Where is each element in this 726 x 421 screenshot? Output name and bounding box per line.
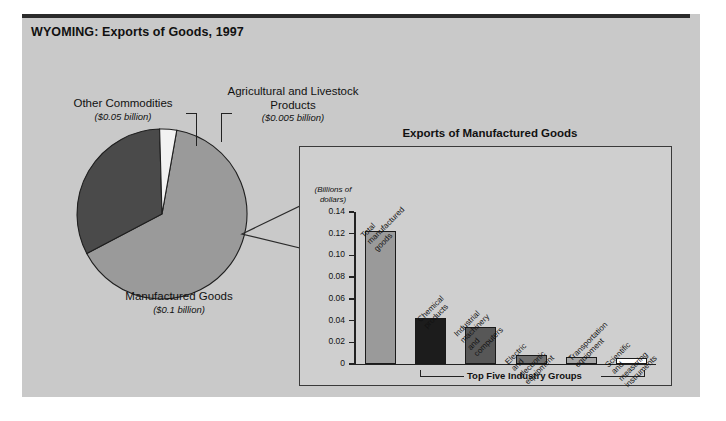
pie-label-manufactured-name: Manufactured Goods [104, 290, 254, 304]
y-tick-label: 0.08 [311, 271, 345, 281]
bar-plot: 00.020.040.060.080.100.120.14 Totalmanuf… [299, 146, 672, 386]
leader-line-other-elbow [186, 113, 197, 114]
page-title: WYOMING: Exports of Goods, 1997 [31, 25, 244, 39]
pie-label-agricultural-amount: ($0.005 billion) [218, 112, 368, 123]
pie-chart [76, 128, 248, 300]
y-tick-label: 0.14 [311, 206, 345, 216]
leader-line-agri-elbow [221, 113, 232, 114]
y-tick [349, 233, 354, 234]
pie-label-agricultural: Agricultural and Livestock Products ($0.… [218, 85, 368, 123]
y-tick-label: 0.10 [311, 249, 345, 259]
pie-to-inset-connector [240, 200, 302, 270]
y-tick-label: 0 [311, 358, 345, 368]
y-tick [349, 298, 354, 299]
pie-label-other-name: Other Commodities [48, 97, 198, 111]
group-bracket-left-arm [420, 376, 464, 377]
title-rule [22, 14, 690, 18]
pie-label-manufactured-amount: ($0.1 billion) [104, 304, 254, 315]
group-label: Top Five Industry Groups [467, 370, 582, 381]
leader-line-other-vertical [196, 113, 197, 146]
pie-label-other-commodities: Other Commodities ($0.05 billion) [48, 97, 198, 122]
pie-label-manufactured: Manufactured Goods ($0.1 billion) [104, 290, 254, 315]
figure-root: WYOMING: Exports of Goods, 1997 Other Co… [0, 0, 726, 421]
group-bracket-right-arm [601, 376, 645, 377]
pie-svg [76, 128, 248, 300]
bar-series [355, 212, 657, 364]
y-tick-label: 0.12 [311, 228, 345, 238]
y-tick-label: 0.04 [311, 315, 345, 325]
pie-label-other-amount: ($0.05 billion) [48, 111, 198, 122]
y-tick [349, 342, 354, 343]
y-tick [349, 276, 354, 277]
y-tick [349, 255, 354, 256]
y-tick [349, 363, 354, 364]
leader-line-agri-vertical [221, 113, 222, 142]
y-tick [349, 320, 354, 321]
y-tick-label: 0.06 [311, 293, 345, 303]
inset-title: Exports of Manufactured Goods [390, 127, 590, 139]
y-tick [349, 211, 354, 212]
pie-label-agricultural-name: Agricultural and Livestock Products [218, 85, 368, 112]
y-tick-label: 0.02 [311, 336, 345, 346]
